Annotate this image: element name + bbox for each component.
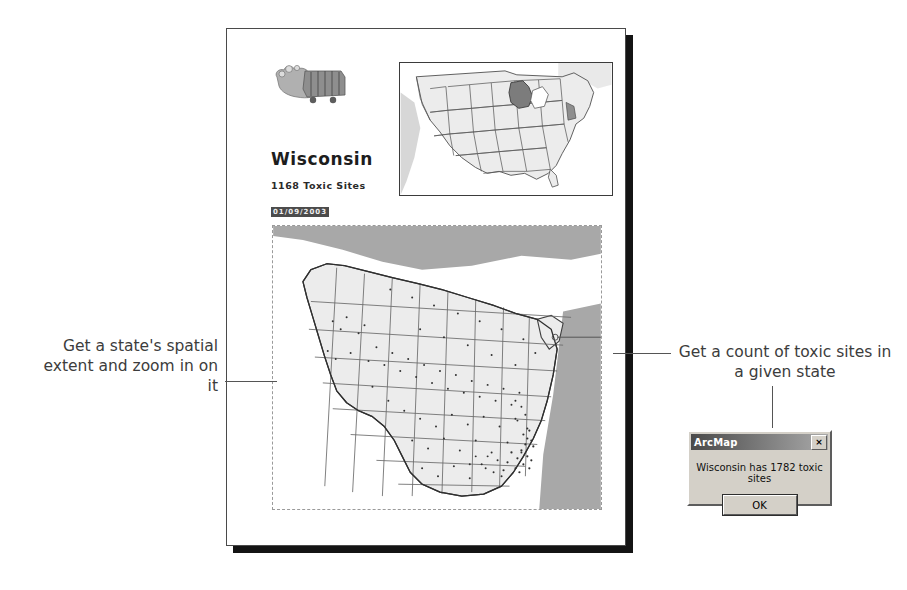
united-states-locator-map (399, 62, 613, 196)
leader-line-right (613, 353, 671, 354)
callout-left: Get a state's spatial extent and zoom in… (36, 336, 218, 396)
dialog-button-row: OK (689, 495, 830, 515)
dialog-titlebar: ArcMap × (691, 434, 828, 450)
leader-line-left (225, 381, 277, 382)
wisconsin-county-map (272, 225, 602, 510)
date-stamp: 01/09/2003 (271, 207, 329, 217)
ok-button[interactable]: OK (723, 495, 797, 515)
callout-right: Get a count of toxic sites in a given st… (672, 342, 898, 382)
leader-line-down (772, 386, 773, 428)
page-title: Wisconsin (271, 149, 373, 169)
state-clipart-icon (271, 59, 349, 109)
close-icon[interactable]: × (811, 435, 827, 450)
dialog-message: Wisconsin has 1782 toxic sites (689, 462, 830, 484)
dialog-title: ArcMap (694, 437, 738, 448)
site-count-label: 1168 Toxic Sites (271, 180, 366, 191)
map-layout-page: Wisconsin 1168 Toxic Sites 01/09/2003 (226, 28, 626, 546)
arcmap-dialog: ArcMap × Wisconsin has 1782 toxic sites … (687, 430, 832, 506)
